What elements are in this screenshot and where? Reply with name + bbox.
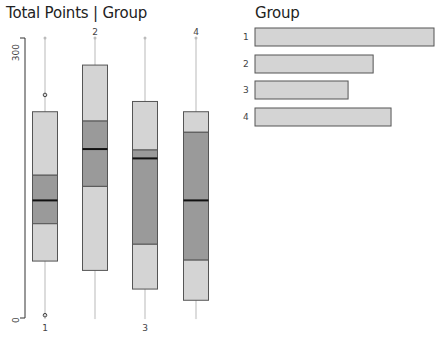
box-lower — [184, 260, 209, 300]
group-bar — [255, 81, 348, 99]
y-tick-label: 300 — [11, 44, 21, 61]
box-lower — [133, 244, 158, 289]
group-label: 2 — [92, 27, 98, 37]
group-bar — [255, 108, 391, 126]
group-label: 1 — [42, 323, 48, 333]
box-upper — [83, 65, 108, 121]
box-iqr — [83, 121, 108, 186]
bar-label: 4 — [243, 112, 249, 122]
whisker-cap — [94, 317, 96, 319]
y-axis — [20, 38, 25, 318]
bar-label: 2 — [243, 59, 249, 69]
whisker-cap — [44, 37, 47, 40]
box-upper — [184, 112, 209, 133]
box-upper — [133, 101, 158, 150]
box-lower — [33, 224, 58, 261]
group-label: 3 — [142, 323, 148, 333]
whisker-cap — [144, 37, 147, 40]
box-iqr — [184, 132, 209, 260]
whisker-cap — [144, 317, 146, 319]
box-lower — [83, 186, 108, 270]
chart-canvas: 300012341234 — [0, 0, 444, 342]
group-bar — [255, 55, 373, 73]
y-tick-label: 0 — [11, 317, 21, 323]
group-label: 4 — [193, 27, 199, 37]
box-upper — [33, 112, 58, 175]
whisker-cap — [195, 317, 197, 319]
group-bar — [255, 28, 434, 46]
bar-label: 1 — [243, 32, 249, 42]
bar-label: 3 — [243, 85, 249, 95]
box-iqr — [133, 150, 158, 244]
